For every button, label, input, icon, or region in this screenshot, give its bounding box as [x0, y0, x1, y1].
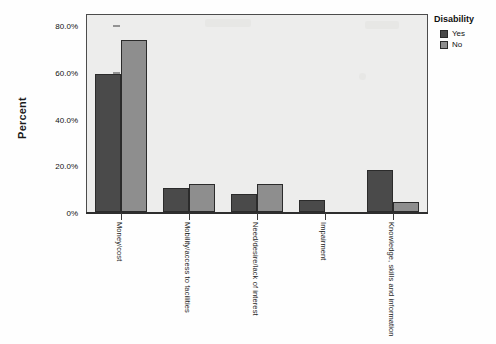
- x-tick-mark: [189, 213, 190, 220]
- bars-layer: [87, 15, 427, 212]
- bar-no: [393, 202, 419, 212]
- legend-swatch-icon: [440, 41, 448, 49]
- legend-item: Yes: [440, 29, 494, 38]
- bar-yes: [367, 170, 393, 212]
- legend-swatch-icon: [440, 30, 448, 38]
- x-tick-label: Impairment: [319, 222, 328, 261]
- legend-entries: YesNo: [434, 29, 494, 49]
- x-tick-mark: [393, 213, 394, 220]
- legend-item-label: No: [452, 40, 462, 49]
- bar-no: [189, 184, 215, 212]
- x-tick-label: Need/desire/lack of interest: [251, 222, 260, 316]
- x-tick-mark: [325, 213, 326, 220]
- bar-no: [121, 40, 147, 212]
- bar-yes: [231, 194, 257, 212]
- y-tick-label: 80.0%: [34, 22, 78, 31]
- legend-item-label: Yes: [452, 29, 465, 38]
- bar-yes: [95, 74, 121, 212]
- x-tick-label: Mobility/access to facilities: [183, 222, 192, 313]
- bar-yes: [163, 188, 189, 212]
- x-tick-label: Money/cost: [115, 222, 124, 261]
- y-tick-label: 20.0%: [34, 162, 78, 171]
- legend-title: Disability: [434, 14, 494, 24]
- x-tick-mark: [121, 213, 122, 220]
- legend: Disability YesNo: [434, 14, 494, 51]
- x-tick-label: Knowledge, skills and information: [387, 222, 396, 337]
- y-axis-title: Percent: [16, 78, 28, 158]
- y-tick-label: 40.0%: [34, 115, 78, 124]
- legend-item: No: [440, 40, 494, 49]
- bar-yes: [299, 200, 325, 212]
- y-tick-label: 0%: [34, 209, 78, 218]
- y-axis-ticks: 0%20.0%40.0%60.0%80.0%: [34, 0, 78, 220]
- bar-no: [257, 184, 283, 212]
- y-tick-label: 60.0%: [34, 68, 78, 77]
- chart-container: Percent 0%20.0%40.0%60.0%80.0% Money/cos…: [0, 0, 496, 344]
- x-tick-mark: [257, 213, 258, 220]
